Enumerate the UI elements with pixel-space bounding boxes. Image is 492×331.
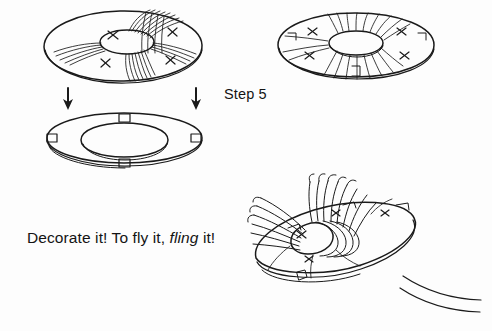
caption-text-part2: it!: [198, 229, 215, 246]
instruction-caption: Decorate it! To fly it, fling it!: [27, 229, 215, 247]
caption-text-part1: Decorate it! To fly it,: [27, 229, 170, 246]
disc-seams: [268, 199, 392, 278]
step-label: Step 5: [224, 86, 267, 102]
figure-gathered-disc-bottom-right: [248, 174, 416, 282]
fringe-bundle-right: [151, 43, 196, 64]
arrow-left: [63, 88, 73, 110]
figure-fringed-disc-top-left: [44, 10, 202, 83]
figure-fringed-disc-top-right: [278, 13, 434, 79]
arrow-right: [191, 88, 201, 110]
fringe-radiating-left: [283, 36, 329, 60]
figure-plain-ring-middle-left: [47, 113, 202, 168]
motion-lines: [400, 276, 481, 312]
illustration-page: Step 5 Decorate it! To fly it, fling it!: [0, 0, 492, 331]
illustration-canvas: [0, 0, 492, 331]
caption-emphasis: fling: [170, 229, 199, 246]
fringe-bundle-left: [54, 43, 105, 65]
